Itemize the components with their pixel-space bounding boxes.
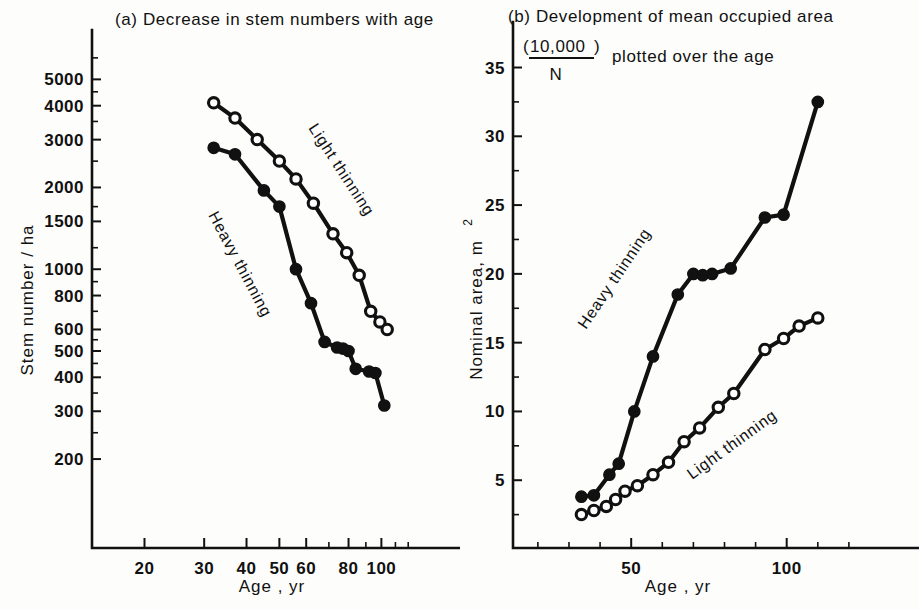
panel-b-y-axis-label: Nominal area, m	[467, 240, 486, 380]
x-tick-label: 30	[194, 559, 214, 578]
data-point-light-thinning	[694, 423, 704, 433]
data-point-heavy-thinning	[629, 406, 640, 417]
data-point-light-thinning	[230, 113, 240, 123]
panel-b-chart: 5101520253035 50100 (b) Development of m…	[460, 0, 919, 610]
y-tick-label: 300	[54, 402, 84, 421]
data-point-heavy-thinning	[319, 336, 330, 347]
data-point-heavy-thinning	[370, 367, 381, 378]
data-point-light-thinning	[366, 306, 376, 316]
data-point-heavy-thinning	[274, 201, 285, 212]
panel-b-y-axis-label-exponent: 2	[461, 218, 475, 226]
y-tick-label: 2000	[44, 178, 84, 197]
data-point-light-thinning	[589, 505, 599, 515]
data-point-light-thinning	[679, 437, 689, 447]
panel-b-y-axis-label-group: Nominal area, m 2	[461, 218, 486, 380]
data-point-heavy-thinning	[208, 142, 219, 153]
y-tick-label: 200	[54, 450, 84, 469]
panel-b-fraction-group: ( 10,000 N ) plotted over the age	[523, 37, 774, 84]
data-point-heavy-thinning	[647, 351, 658, 362]
panel-b-x-ticks: 50100	[538, 538, 849, 578]
y-tick-label: 10	[485, 402, 505, 421]
panel-a-title: (a) Decrease in stem numbers with age	[115, 10, 434, 29]
data-point-light-thinning	[342, 248, 352, 258]
series-line-light-thinning	[214, 103, 388, 330]
panel-a-axes	[92, 30, 460, 548]
data-point-light-thinning	[632, 481, 642, 491]
data-point-light-thinning	[794, 321, 804, 331]
data-point-heavy-thinning	[343, 345, 354, 356]
y-tick-label: 1000	[44, 260, 84, 279]
x-tick-label: 20	[135, 559, 155, 578]
data-point-light-thinning	[308, 198, 318, 208]
data-point-heavy-thinning	[759, 212, 770, 223]
y-tick-label: 15	[485, 334, 505, 353]
data-point-light-thinning	[252, 134, 262, 144]
y-tick-label: 4000	[44, 97, 84, 116]
data-point-heavy-thinning	[604, 469, 615, 480]
data-point-heavy-thinning	[725, 263, 736, 274]
data-point-heavy-thinning	[290, 264, 301, 275]
x-tick-label: 50	[621, 559, 641, 578]
axis-lines	[92, 30, 460, 548]
data-point-heavy-thinning	[305, 298, 316, 309]
data-point-light-thinning	[760, 344, 770, 354]
data-point-heavy-thinning	[778, 209, 789, 220]
data-point-light-thinning	[778, 333, 788, 343]
x-tick-label: 100	[772, 559, 802, 578]
figure-canvas: 2003004005006008001000150020003000400050…	[0, 0, 919, 610]
data-point-heavy-thinning	[613, 458, 624, 469]
data-point-light-thinning	[382, 324, 392, 334]
y-tick-label: 20	[485, 265, 505, 284]
panel-b-title-line1: (b) Development of mean occupied area	[508, 7, 834, 26]
y-tick-label: 800	[54, 287, 84, 306]
data-point-light-thinning	[648, 470, 658, 480]
x-tick-label: 50	[269, 559, 289, 578]
data-point-heavy-thinning	[672, 289, 683, 300]
data-point-heavy-thinning	[379, 400, 390, 411]
data-point-light-thinning	[274, 156, 284, 166]
panel-b-light-thinning-label: Light thinning	[684, 406, 780, 482]
data-point-light-thinning	[291, 174, 301, 184]
data-point-light-thinning	[620, 486, 630, 496]
y-tick-label: 600	[54, 320, 84, 339]
data-point-heavy-thinning	[812, 96, 823, 107]
data-point-heavy-thinning	[258, 185, 269, 196]
panel-a-x-ticks: 203040506080100	[135, 538, 409, 578]
y-tick-label: 5000	[44, 70, 84, 89]
panel-b-x-axis-label: Age , yr	[645, 577, 712, 596]
data-point-heavy-thinning	[576, 491, 587, 502]
axis-lines	[513, 22, 919, 548]
series-line-heavy-thinning	[581, 102, 817, 497]
data-point-light-thinning	[713, 402, 723, 412]
y-tick-label: 500	[54, 342, 84, 361]
panel-b-y-ticks: 5101520253035	[485, 59, 522, 515]
panel-b-fraction-denominator: N	[550, 65, 563, 84]
x-tick-label: 100	[366, 559, 396, 578]
data-point-heavy-thinning	[707, 268, 718, 279]
data-point-light-thinning	[729, 388, 739, 398]
data-point-light-thinning	[576, 509, 586, 519]
data-point-heavy-thinning	[350, 363, 361, 374]
data-point-heavy-thinning	[229, 149, 240, 160]
data-point-light-thinning	[209, 98, 219, 108]
y-tick-label: 3000	[44, 131, 84, 150]
y-tick-label: 25	[485, 196, 505, 215]
panel-a-heavy-thinning-label: Heavy thinning	[205, 208, 275, 319]
panel-a-y-axis-label: Stem number / ha	[18, 224, 37, 375]
panel-b-fraction-numerator: 10,000	[530, 37, 586, 56]
panel-a-x-axis-label: Age , yr	[239, 577, 306, 596]
x-tick-label: 40	[237, 559, 257, 578]
panel-b-heavy-thinning-label: Heavy thinning	[574, 225, 654, 332]
panel-b-fraction-open-paren: (	[523, 37, 529, 56]
data-point-light-thinning	[610, 494, 620, 504]
y-tick-label: 400	[54, 368, 84, 387]
data-point-light-thinning	[328, 229, 338, 239]
x-tick-label: 80	[339, 559, 359, 578]
x-tick-label: 60	[296, 559, 316, 578]
data-point-heavy-thinning	[588, 490, 599, 501]
y-tick-label: 1500	[44, 212, 84, 231]
panel-b-axes	[513, 22, 919, 548]
data-point-light-thinning	[813, 313, 823, 323]
y-tick-label: 35	[485, 59, 505, 78]
series-line-light-thinning	[581, 318, 817, 515]
